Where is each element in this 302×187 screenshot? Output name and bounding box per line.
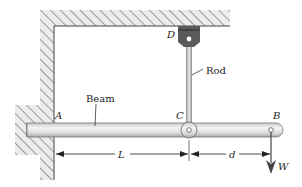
label-beam: Beam	[86, 93, 115, 104]
label-rod: Rod	[206, 65, 227, 76]
pin-b	[269, 128, 274, 133]
pin-c	[181, 122, 197, 138]
rod	[187, 44, 192, 124]
label-a: A	[54, 110, 62, 121]
label-b: B	[272, 110, 280, 121]
label-l: L	[117, 149, 125, 160]
label-c: C	[176, 110, 184, 121]
beam-rod-diagram: D Rod Beam A C B L d W	[0, 0, 302, 187]
rod-leader	[192, 69, 203, 75]
bracket-d	[178, 26, 200, 47]
label-w: W	[278, 161, 289, 172]
ceiling-support	[40, 10, 230, 26]
load-arrow-w	[266, 132, 276, 174]
label-d-point: D	[166, 29, 175, 40]
label-d-length: d	[229, 149, 235, 160]
beam	[27, 123, 283, 137]
wall-support	[15, 10, 54, 180]
